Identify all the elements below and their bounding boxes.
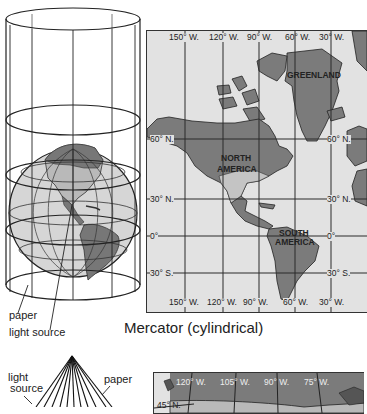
conic-top-tick-90w: 90° W. bbox=[264, 378, 289, 387]
conic-map: 120° W. 105° W. 90° W. 75° W. 45° N. bbox=[153, 372, 364, 414]
conic-top-tick-75w: 75° W. bbox=[304, 378, 329, 387]
paper-leader-line-2 bbox=[102, 386, 110, 395]
conic-top-tick-105w: 105° W. bbox=[220, 378, 250, 387]
conic-top-tick-120w: 120° W. bbox=[176, 378, 206, 387]
light-label-line2: source bbox=[10, 382, 43, 394]
conic-left-tick-45n: 45° N. bbox=[157, 401, 181, 410]
paper-label-2: paper bbox=[104, 373, 132, 385]
light-source-leader-line-2 bbox=[24, 396, 32, 404]
